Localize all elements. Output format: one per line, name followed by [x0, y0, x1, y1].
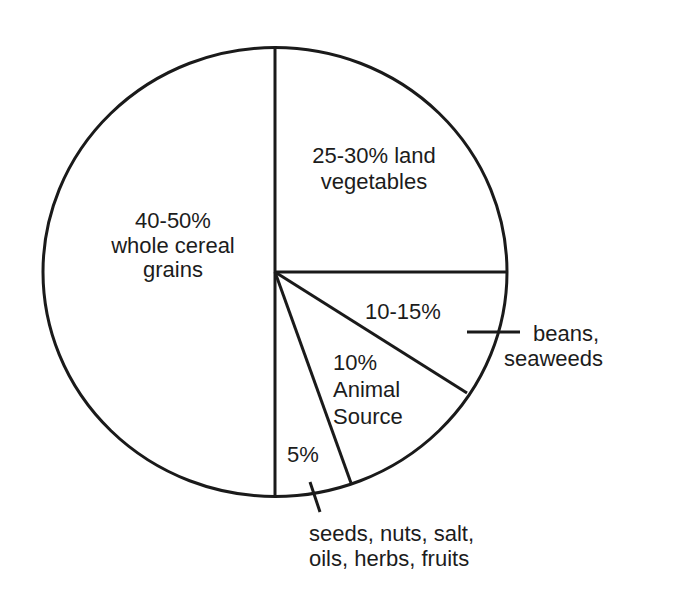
animal-name-line2: Source [333, 404, 403, 429]
seeds-pct: 5% [287, 442, 319, 467]
vegetables-line2: vegetables [321, 169, 427, 194]
beans-name-line1: beans, [533, 321, 599, 346]
grains-name-line2: grains [143, 257, 203, 282]
slice-label-vegetables: 25-30% land vegetables [312, 143, 436, 194]
animal-name-line1: Animal [333, 377, 400, 402]
animal-pct: 10% [333, 350, 377, 375]
seeds-name-line2: oils, herbs, fruits [309, 546, 469, 571]
grains-name-line1: whole cereal [110, 233, 235, 258]
seeds-name-line1: seeds, nuts, salt, [309, 521, 474, 546]
vegetables-line1: 25-30% land [312, 143, 436, 168]
beans-name-line2: seaweeds [504, 346, 603, 371]
pie-chart: 40-50% whole cereal grains 25-30% land v… [0, 0, 674, 598]
grains-pct: 40-50% [135, 208, 211, 233]
beans-pct: 10-15% [365, 299, 441, 324]
